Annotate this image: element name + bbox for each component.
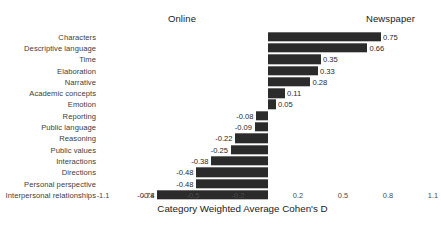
bar-value-label: 0.75 [383,32,398,41]
x-tick-label: -1.1 [97,191,110,200]
bar [196,179,268,188]
bar-value-label: 0.33 [320,66,335,75]
bar-value-label: -0.08 [236,111,253,120]
bar-value-label: -0.48 [176,168,193,177]
bar-value-label: -0.48 [176,179,193,188]
category-label: Narrative [65,77,96,86]
bar-value-label: 0.11 [287,89,301,98]
bar-row: Academic concepts0.11 [0,88,441,99]
bar-value-label: 0.05 [278,100,293,109]
bar-row: Time0.35 [0,54,441,65]
category-label: Descriptive language [24,43,96,52]
bar-row: Public language-0.09 [0,121,441,132]
bar [268,43,367,52]
x-axis-title: Category Weighted Average Cohen's D [0,203,441,214]
category-label: Reporting [63,111,96,120]
bar-row: Reasoning-0.22 [0,133,441,144]
x-tick-label: 0.8 [383,191,393,200]
bar-row: Public values-0.25 [0,144,441,155]
bar-value-label: 0.66 [370,43,385,52]
bar [268,66,318,75]
bar-row: Emotion0.05 [0,99,441,110]
bar [196,168,268,177]
category-label: Time [79,55,96,64]
bar-value-label: -0.38 [191,156,208,165]
bar [235,134,268,143]
category-label: Academic concepts [29,89,96,98]
plot-area: Characters0.75Descriptive language0.66Ti… [0,30,441,190]
category-label: Directions [62,168,96,177]
x-tick-label: -0.5 [187,191,200,200]
x-axis: Category Weighted Average Cohen's D -1.1… [0,191,441,227]
bar [268,55,321,64]
bar [268,88,285,97]
x-tick-label: 0.2 [293,191,303,200]
category-label: Elaboration [57,66,96,75]
bar-value-label: 0.28 [313,77,328,86]
x-tick-label: 1.1 [428,191,438,200]
group-label-newspaper: Newspaper [366,13,415,24]
bar-value-label: -0.25 [211,145,228,154]
category-label: Characters [58,32,96,41]
x-tick-label: -0.2 [232,191,245,200]
bar-row: Interactions-0.38 [0,155,441,166]
group-label-online: Online [168,13,196,24]
bar-row: Personal perspective-0.48 [0,178,441,189]
category-label: Emotion [68,100,96,109]
bar-row: Elaboration0.33 [0,65,441,76]
x-axis-title-text: Category Weighted Average Cohen's D [113,203,327,214]
bar-row: Characters0.75 [0,31,441,42]
bar-value-label: -0.09 [235,123,252,132]
x-tick-label: -0.8 [142,191,155,200]
category-label: Personal perspective [24,179,96,188]
category-label: Public language [41,123,96,132]
bar [268,77,310,86]
bar [268,32,381,41]
chart-figure: Online Newspaper Characters0.75Descripti… [0,0,441,227]
bar [231,145,269,154]
category-label: Public values [51,145,96,154]
bar-row: Descriptive language0.66 [0,42,441,53]
category-label: Interactions [56,156,96,165]
bar-row: Narrative0.28 [0,76,441,87]
bar-row: Reporting-0.08 [0,110,441,121]
bar-row: Directions-0.48 [0,167,441,178]
bar-value-label: 0.35 [323,55,338,64]
bar [255,122,269,131]
bar-value-label: -0.22 [215,134,232,143]
bar [256,111,268,120]
bar [211,156,268,165]
category-label: Reasoning [59,134,96,143]
x-tick-label: 0.5 [338,191,348,200]
bar [268,100,276,109]
